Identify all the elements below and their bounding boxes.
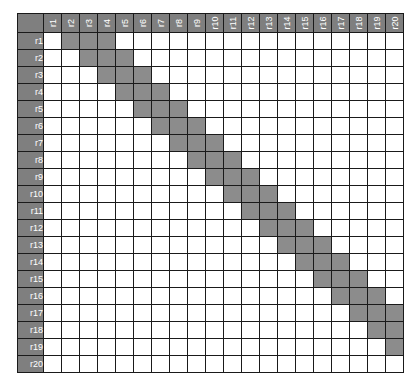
empty-cell bbox=[260, 118, 278, 135]
matrix-row: r7 bbox=[18, 135, 404, 152]
empty-cell bbox=[44, 305, 62, 322]
empty-cell bbox=[44, 186, 62, 203]
empty-cell bbox=[98, 305, 116, 322]
empty-cell bbox=[170, 186, 188, 203]
shaded-cell bbox=[206, 169, 224, 186]
empty-cell bbox=[368, 152, 386, 169]
empty-cell bbox=[134, 271, 152, 288]
empty-cell bbox=[116, 152, 134, 169]
matrix-row: r1 bbox=[18, 33, 404, 50]
empty-cell bbox=[314, 152, 332, 169]
empty-cell bbox=[350, 84, 368, 101]
empty-cell bbox=[224, 254, 242, 271]
empty-cell bbox=[134, 305, 152, 322]
shaded-cell bbox=[134, 101, 152, 118]
column-header-label: r17 bbox=[336, 16, 346, 29]
empty-cell bbox=[134, 339, 152, 356]
empty-cell bbox=[152, 339, 170, 356]
empty-cell bbox=[332, 237, 350, 254]
empty-cell bbox=[152, 203, 170, 220]
empty-cell bbox=[116, 118, 134, 135]
empty-cell bbox=[62, 254, 80, 271]
shaded-cell bbox=[170, 135, 188, 152]
empty-cell bbox=[296, 33, 314, 50]
empty-cell bbox=[80, 356, 98, 373]
shaded-cell bbox=[350, 305, 368, 322]
empty-cell bbox=[116, 322, 134, 339]
shaded-cell bbox=[98, 67, 116, 84]
empty-cell bbox=[260, 84, 278, 101]
empty-cell bbox=[134, 322, 152, 339]
column-header-label: r7 bbox=[156, 19, 166, 27]
row-header-r10: r10 bbox=[18, 186, 44, 203]
adjacency-matrix: r1r2r3r4r5r6r7r8r9r10r11r12r13r14r15r16r… bbox=[17, 13, 404, 373]
shaded-cell bbox=[170, 101, 188, 118]
shaded-cell bbox=[152, 118, 170, 135]
empty-cell bbox=[296, 271, 314, 288]
empty-cell bbox=[368, 33, 386, 50]
shaded-cell bbox=[278, 203, 296, 220]
empty-cell bbox=[332, 169, 350, 186]
empty-cell bbox=[80, 135, 98, 152]
empty-cell bbox=[278, 339, 296, 356]
empty-cell bbox=[224, 305, 242, 322]
empty-cell bbox=[116, 339, 134, 356]
empty-cell bbox=[98, 118, 116, 135]
column-header-r18: r18 bbox=[350, 14, 368, 33]
empty-cell bbox=[296, 203, 314, 220]
empty-cell bbox=[98, 152, 116, 169]
empty-cell bbox=[44, 169, 62, 186]
empty-cell bbox=[350, 220, 368, 237]
shaded-cell bbox=[134, 84, 152, 101]
empty-cell bbox=[260, 169, 278, 186]
empty-cell bbox=[242, 152, 260, 169]
row-header-r8: r8 bbox=[18, 152, 44, 169]
empty-cell bbox=[224, 237, 242, 254]
empty-cell bbox=[278, 135, 296, 152]
column-header-label: r2 bbox=[66, 19, 76, 27]
empty-cell bbox=[368, 169, 386, 186]
empty-cell bbox=[332, 67, 350, 84]
empty-cell bbox=[242, 33, 260, 50]
empty-cell bbox=[386, 152, 404, 169]
empty-cell bbox=[296, 50, 314, 67]
empty-cell bbox=[44, 288, 62, 305]
empty-cell bbox=[242, 118, 260, 135]
empty-cell bbox=[224, 220, 242, 237]
empty-cell bbox=[170, 33, 188, 50]
matrix-row: r14 bbox=[18, 254, 404, 271]
empty-cell bbox=[206, 67, 224, 84]
empty-cell bbox=[170, 322, 188, 339]
column-header-label: r13 bbox=[264, 16, 274, 29]
column-header-r6: r6 bbox=[134, 14, 152, 33]
empty-cell bbox=[116, 237, 134, 254]
empty-cell bbox=[386, 135, 404, 152]
empty-cell bbox=[188, 356, 206, 373]
empty-cell bbox=[350, 169, 368, 186]
empty-cell bbox=[62, 339, 80, 356]
row-header-r2: r2 bbox=[18, 50, 44, 67]
empty-cell bbox=[62, 101, 80, 118]
empty-cell bbox=[314, 288, 332, 305]
empty-cell bbox=[278, 152, 296, 169]
empty-cell bbox=[98, 101, 116, 118]
empty-cell bbox=[224, 271, 242, 288]
column-header-label: r18 bbox=[354, 16, 364, 29]
row-header-r15: r15 bbox=[18, 271, 44, 288]
empty-cell bbox=[44, 203, 62, 220]
empty-cell bbox=[188, 84, 206, 101]
empty-cell bbox=[152, 356, 170, 373]
empty-cell bbox=[296, 152, 314, 169]
empty-cell bbox=[368, 220, 386, 237]
shaded-cell bbox=[314, 237, 332, 254]
empty-cell bbox=[116, 271, 134, 288]
empty-cell bbox=[332, 305, 350, 322]
empty-cell bbox=[170, 254, 188, 271]
matrix-row: r20 bbox=[18, 356, 404, 373]
empty-cell bbox=[62, 288, 80, 305]
empty-cell bbox=[134, 356, 152, 373]
empty-cell bbox=[80, 305, 98, 322]
empty-cell bbox=[80, 84, 98, 101]
row-header-r16: r16 bbox=[18, 288, 44, 305]
column-header-r9: r9 bbox=[188, 14, 206, 33]
